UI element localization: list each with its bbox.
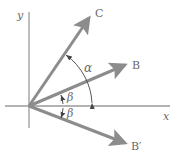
vector-b-label: B xyxy=(132,59,140,72)
vector-c-label: C xyxy=(95,7,103,20)
vector-angle-diagram: y x C B B′ α β β xyxy=(0,0,183,162)
vector-b-prime-label: B′ xyxy=(131,140,142,153)
beta-lower-arc xyxy=(61,108,63,118)
alpha-label: α xyxy=(84,61,92,75)
beta-upper-arc xyxy=(61,95,63,104)
vector-b-prime xyxy=(29,106,125,143)
beta-upper-label: β xyxy=(66,91,73,104)
y-axis-label: y xyxy=(16,9,24,22)
vectors xyxy=(29,18,125,143)
beta-lower-label: β xyxy=(66,107,73,120)
x-axis-label: x xyxy=(163,110,170,123)
